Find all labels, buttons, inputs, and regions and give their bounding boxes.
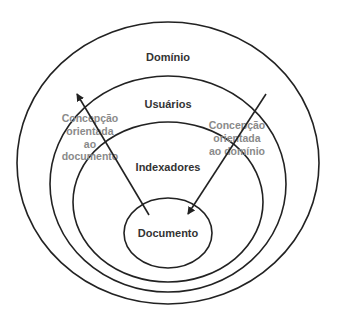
label-dominio: Domínio: [146, 51, 190, 63]
annotation-doc-line1: Concepção: [62, 112, 119, 124]
label-documento: Documento: [138, 227, 199, 239]
annotation-doc-line2: orientada: [66, 125, 113, 137]
nested-ellipses-diagram: Domínio Usuários Indexadores Documento C…: [0, 0, 337, 319]
annotation-domain-line3: ao domínio: [209, 145, 265, 157]
annotation-doc-line4: documento: [62, 150, 119, 162]
label-usuarios: Usuários: [144, 98, 191, 110]
annotation-domain-line1: Concepção: [209, 119, 266, 131]
annotation-doc-line3: ao: [84, 138, 96, 150]
label-indexadores: Indexadores: [136, 161, 201, 173]
